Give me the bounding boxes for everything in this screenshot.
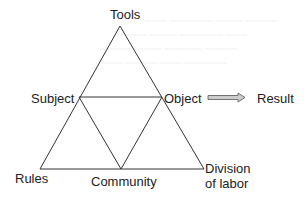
result-arrow-icon [208, 93, 245, 102]
object-label: Object [164, 92, 202, 106]
subject-community-edge [79, 97, 121, 169]
subject-label: Subject [31, 92, 74, 106]
object-community-edge [121, 97, 162, 169]
result-label: Result [257, 92, 294, 106]
tools-label: Tools [110, 8, 140, 22]
division-of-labor-label-line1: Division [205, 162, 251, 176]
division-of-labor-label-line2: of labor [205, 177, 248, 191]
community-label: Community [91, 175, 157, 189]
rules-label: Rules [15, 172, 48, 186]
